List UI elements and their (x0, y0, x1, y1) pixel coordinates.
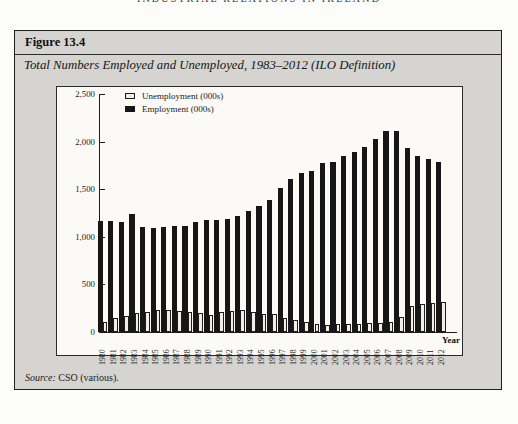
x-axis-label-1994: 1994 (246, 335, 255, 365)
bar-unemployment-1980 (103, 322, 108, 332)
legend-marker-employment (125, 106, 135, 112)
x-axis-label-1983: 1983 (130, 335, 139, 365)
bar-unemployment-1992 (230, 311, 235, 332)
y-axis-tick-label: 1,500 (61, 184, 95, 194)
x-axis-label-1997: 1997 (278, 335, 287, 365)
bar-unemployment-2010 (420, 304, 425, 332)
chart-legend: Unemployment (000s)Employment (000s) (125, 89, 223, 115)
x-axis-label-2003: 2003 (342, 335, 351, 365)
bar-unemployment-1994 (251, 312, 256, 332)
bar-unemployment-1984 (145, 312, 150, 332)
bar-unemployment-2001 (325, 325, 330, 332)
bar-unemployment-1991 (219, 312, 224, 332)
x-axis-label-1984: 1984 (141, 335, 150, 365)
bar-unemployment-1986 (166, 310, 171, 332)
figure-label: Figure 13.4 (25, 35, 85, 50)
legend-item-employment: Employment (000s) (125, 102, 223, 115)
x-axis-label-1991: 1991 (215, 335, 224, 365)
legend-item-unemployment: Unemployment (000s) (125, 89, 223, 102)
bar-unemployment-2012 (441, 302, 446, 332)
x-axis-label-1988: 1988 (183, 335, 192, 365)
x-axis-label-1987: 1987 (172, 335, 181, 365)
bar-unemployment-1987 (177, 311, 182, 332)
y-axis-tick-label: 2,500 (61, 89, 95, 99)
bar-employment-1999 (299, 173, 304, 332)
bar-employment-2007 (383, 131, 388, 332)
bar-unemployment-1996 (272, 314, 277, 332)
x-axis-label-1999: 1999 (299, 335, 308, 365)
y-axis-tick-label: 1,000 (61, 232, 95, 242)
x-axis-label-1990: 1990 (204, 335, 213, 365)
bar-unemployment-2002 (336, 324, 341, 332)
y-axis-tick-label: 500 (61, 279, 95, 289)
x-axis-label-1989: 1989 (194, 335, 203, 365)
x-axis-label-1998: 1998 (289, 335, 298, 365)
x-axis-label-2002: 2002 (331, 335, 340, 365)
bar-unemployment-1998 (293, 320, 298, 332)
bar-employment-1996 (267, 200, 272, 332)
bar-employment-2004 (352, 152, 357, 332)
bar-unemployment-2007 (389, 322, 394, 332)
bar-unemployment-2006 (378, 323, 383, 332)
bar-unemployment-1990 (209, 315, 214, 332)
source-prefix: Source: (25, 372, 56, 383)
legend-label-unemployment: Unemployment (000s) (142, 91, 223, 101)
bar-employment-2001 (320, 163, 325, 332)
bar-employment-2003 (341, 156, 346, 332)
bar-unemployment-2009 (410, 306, 415, 332)
x-axis-label-2008: 2008 (395, 335, 404, 365)
chart-panel: Unemployment (000s)Employment (000s) 050… (56, 86, 463, 356)
y-axis-tick-label: 0 (61, 327, 95, 337)
bar-unemployment-2004 (357, 324, 362, 332)
x-axis-label-1985: 1985 (151, 335, 160, 365)
x-axis-label-1992: 1992 (225, 335, 234, 365)
x-axis-line (99, 332, 457, 333)
y-axis-tick (100, 142, 105, 143)
x-axis-label-2005: 2005 (363, 335, 372, 365)
bar-employment-1998 (288, 179, 293, 332)
x-axis-label-2006: 2006 (373, 335, 382, 365)
x-axis-label-2001: 2001 (320, 335, 329, 365)
x-axis-label-1980: 1980 (98, 335, 107, 365)
bar-unemployment-2003 (346, 324, 351, 332)
x-axis-label-1982: 1982 (119, 335, 128, 365)
bar-unemployment-1985 (156, 310, 161, 332)
bar-unemployment-1981 (113, 318, 118, 332)
running-header: INDUSTRIAL RELATIONS IN IRELAND (0, 0, 518, 4)
y-axis-tick (100, 94, 105, 95)
bar-employment-1997 (278, 188, 283, 332)
x-axis-label-1995: 1995 (257, 335, 266, 365)
x-axis-label-1993: 1993 (236, 335, 245, 365)
bar-unemployment-1988 (188, 312, 193, 332)
bar-unemployment-1999 (304, 322, 309, 332)
figure-rule-divider (15, 54, 501, 55)
bar-employment-1981 (108, 221, 113, 332)
bar-unemployment-1997 (283, 318, 288, 332)
source-text: CSO (various). (56, 372, 119, 383)
x-axis-label-2010: 2010 (416, 335, 425, 365)
x-axis-title: Year (442, 335, 460, 345)
bar-employment-2005 (362, 147, 367, 332)
bar-unemployment-1995 (262, 314, 267, 332)
bar-unemployment-1982 (124, 316, 129, 332)
x-axis-label-1981: 1981 (109, 335, 118, 365)
x-axis-label-2004: 2004 (352, 335, 361, 365)
figure-box: Figure 13.4 Total Numbers Employed and U… (14, 30, 502, 390)
bar-employment-2000 (309, 171, 314, 332)
legend-marker-unemployment (125, 93, 135, 99)
bar-employment-2002 (330, 162, 335, 332)
y-axis-tick-label: 2,000 (61, 137, 95, 147)
x-axis-label-1996: 1996 (268, 335, 277, 365)
y-axis-tick (100, 189, 105, 190)
bar-unemployment-2000 (315, 324, 320, 332)
bar-unemployment-1989 (198, 313, 203, 332)
bar-employment-2009 (405, 148, 410, 332)
bar-unemployment-1983 (135, 313, 140, 332)
bar-employment-1980 (98, 221, 103, 332)
x-axis-label-2000: 2000 (310, 335, 319, 365)
bar-employment-2006 (373, 139, 378, 332)
bar-unemployment-1993 (240, 310, 245, 332)
figure-title: Total Numbers Employed and Unemployed, 1… (24, 58, 494, 73)
x-axis-label-2011: 2011 (426, 335, 435, 365)
x-axis-label-2009: 2009 (405, 335, 414, 365)
